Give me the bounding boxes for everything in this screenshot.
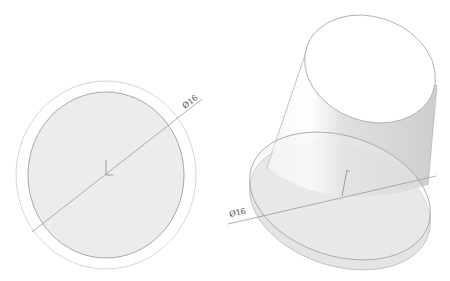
iso-view: Ø16 [228, 0, 450, 281]
iso-diameter-dimension-label[interactable]: Ø16 [228, 206, 246, 219]
top-view: Ø16 [16, 81, 202, 269]
drawing-canvas: Ø16 Ø16 [0, 0, 450, 281]
